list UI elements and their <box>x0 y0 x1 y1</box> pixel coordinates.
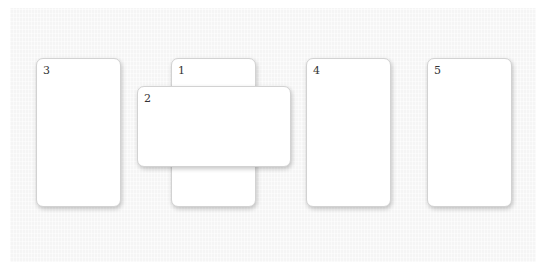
card-label: 1 <box>178 65 185 77</box>
card-2[interactable]: 2 <box>137 86 291 167</box>
card-5[interactable]: 5 <box>427 58 512 207</box>
card-label: 3 <box>43 65 50 77</box>
card-label: 4 <box>313 65 320 77</box>
card-label: 2 <box>144 93 151 105</box>
card-label: 5 <box>434 65 441 77</box>
card-4[interactable]: 4 <box>306 58 391 207</box>
card-3[interactable]: 3 <box>36 58 121 207</box>
